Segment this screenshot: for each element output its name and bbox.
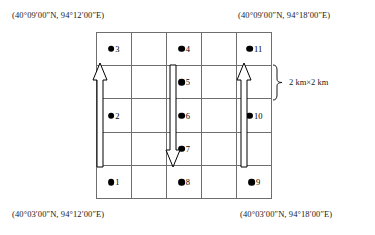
sample-point-label: 9 — [256, 178, 260, 187]
sample-point-dot-icon — [178, 45, 185, 52]
sample-point-dot-icon — [249, 179, 256, 186]
coordinate-label-top-right: (40°09′00″N, 94°18′00″E) — [238, 10, 330, 20]
sample-point-label: 6 — [186, 111, 190, 120]
sample-point-label: 11 — [254, 44, 262, 53]
sample-point-label: 7 — [186, 145, 190, 154]
sample-point-label: 3 — [115, 44, 119, 53]
sample-point: 3 — [108, 44, 120, 53]
sample-point-label: 10 — [254, 111, 263, 120]
sample-point-label: 8 — [186, 178, 190, 187]
sample-point-label: 2 — [115, 111, 119, 120]
arrow-up-left-icon — [92, 63, 108, 167]
sample-point: 1 — [108, 178, 120, 187]
sample-point-label: 1 — [115, 178, 119, 187]
sample-point: 4 — [178, 44, 190, 53]
coordinate-label-bottom-left: (40°03′00″N, 94°12′00″E) — [12, 209, 104, 219]
coordinate-label-bottom-right: (40°03′00″N, 94°18′00″E) — [240, 209, 332, 219]
sampling-grid-figure: (40°09′00″N, 94°12′00″E) (40°09′00″N, 94… — [0, 0, 375, 235]
sample-point-dot-icon — [108, 112, 115, 119]
sample-point-dot-icon — [108, 45, 115, 52]
arrow-up-right-icon — [236, 63, 252, 167]
sample-point-label: 4 — [186, 44, 190, 53]
sample-point: 8 — [178, 178, 190, 187]
scale-bracket-icon — [272, 65, 284, 100]
sample-point: 9 — [249, 178, 261, 187]
sample-point-label: 5 — [186, 78, 190, 87]
scale-label: 2 km×2 km — [289, 77, 328, 87]
arrow-down-middle-icon — [165, 65, 181, 167]
sample-point: 11 — [247, 44, 263, 53]
sample-point-dot-icon — [178, 179, 185, 186]
sample-point: 2 — [108, 111, 120, 120]
sample-point-dot-icon — [108, 179, 115, 186]
sample-point-dot-icon — [247, 45, 254, 52]
coordinate-label-top-left: (40°09′00″N, 94°12′00″E) — [12, 10, 104, 20]
